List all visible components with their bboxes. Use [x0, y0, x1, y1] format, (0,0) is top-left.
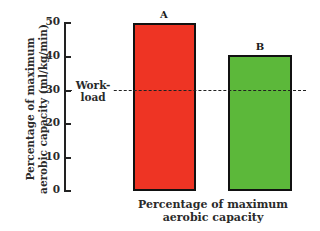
x-axis-title-line-1: Percentage of maximum [128, 198, 298, 211]
workload-label-line-1: Work- [74, 79, 112, 91]
y-tick-40 [64, 56, 71, 58]
y-tick-50 [64, 22, 71, 24]
x-axis-title: Percentage of maximum aerobic capacity [128, 198, 298, 224]
y-axis-title-line-1: Percentage of maximum [24, 14, 37, 204]
y-tick-0 [64, 190, 71, 192]
bar-label-a: A [133, 9, 195, 20]
y-tick-20 [64, 123, 71, 125]
workload-label-line-2: load [74, 91, 112, 103]
bar-a [133, 23, 196, 191]
y-axis-title-line-2: aerobic capacity (ml/kg/min) [37, 14, 50, 204]
y-tick-label: 10 [40, 150, 60, 162]
y-tick-label: 50 [40, 15, 60, 27]
y-tick-label: 20 [40, 116, 60, 128]
y-axis-line [64, 22, 66, 191]
y-tick-10 [64, 157, 71, 159]
y-tick-label: 0 [40, 183, 60, 195]
bar-label-b: B [229, 41, 291, 52]
x-axis-title-line-2: aerobic capacity [128, 211, 298, 224]
y-tick-label: 30 [40, 83, 60, 95]
y-tick-label: 40 [40, 49, 60, 61]
workload-label: Work- load [74, 79, 112, 103]
bar-b [228, 55, 292, 191]
y-axis-title: Percentage of maximum aerobic capacity (… [24, 14, 50, 204]
